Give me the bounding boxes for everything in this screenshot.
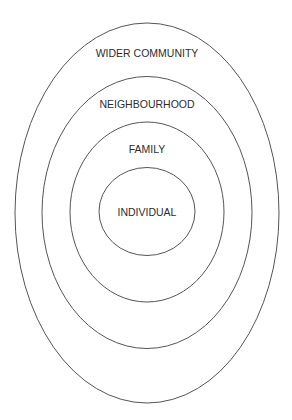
label-wider-community: WIDER COMMUNITY <box>96 47 199 59</box>
label-family: FAMILY <box>129 143 166 155</box>
label-individual: INDIVIDUAL <box>118 206 177 218</box>
ring-individual: INDIVIDUAL <box>99 168 195 256</box>
label-neighbourhood: NEIGHBOURHOOD <box>99 98 195 110</box>
nested-circles-diagram: WIDER COMMUNITY NEIGHBOURHOOD FAMILY IND… <box>0 0 292 420</box>
